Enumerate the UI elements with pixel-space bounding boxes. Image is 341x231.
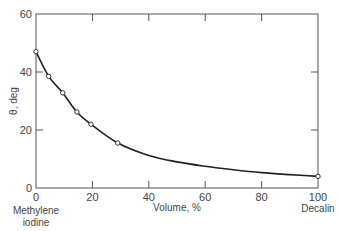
x-axis-label: Volume, % [153, 202, 201, 213]
data-point [61, 91, 65, 95]
y-tick-label: 20 [20, 124, 32, 136]
x-tick-label: 100 [309, 191, 327, 203]
data-point [89, 122, 93, 126]
data-point [34, 50, 38, 54]
x-tick-label: 0 [33, 191, 39, 203]
y-tick-label: 60 [20, 8, 32, 20]
y-tick-label: 0 [26, 182, 32, 194]
chart: 0204060801000204060 Volume, % θ, deg Met… [0, 0, 341, 231]
data-point [316, 174, 320, 178]
data-point [116, 141, 120, 145]
y-axis-label: θ, deg [8, 87, 19, 115]
y-tick-label: 40 [20, 66, 32, 78]
data-point [75, 110, 79, 114]
x-tick-label: 20 [86, 191, 98, 203]
x-tick-label: 80 [255, 191, 267, 203]
x-right-end-label: Decalin [301, 203, 334, 214]
data-point [46, 74, 50, 78]
x-tick-label: 60 [199, 191, 211, 203]
data-points [34, 50, 320, 179]
x-left-end-label: Methyleneiodine [13, 205, 60, 228]
